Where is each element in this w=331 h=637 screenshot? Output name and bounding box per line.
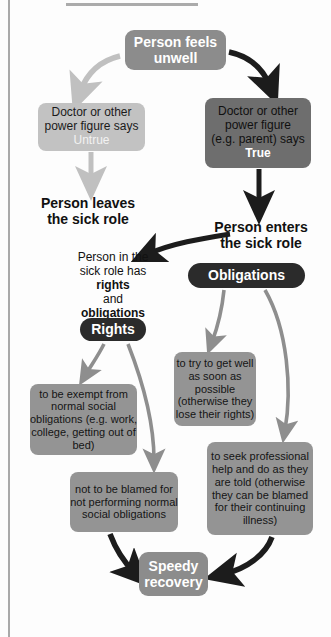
node-right-not-to-be-blamed[interactable]: not to be blamed for not performing norm… [70, 472, 178, 532]
true-line-3: (e.g. parent) says [205, 133, 311, 147]
node-label: Doctor or other power figure says Untrue [38, 106, 145, 148]
node-sick-role-has-rights-and-obligations: Person in the sick role has rights and o… [40, 262, 186, 310]
node-speedy-recovery[interactable]: Speedy recovery [139, 552, 208, 596]
untrue-line-1: Doctor or other [38, 106, 145, 120]
heading-obligations[interactable]: Obligations [188, 263, 305, 288]
edge-seekhelp-to-speedy [224, 537, 272, 574]
edge-unwell-to-true [229, 52, 270, 86]
leaves-line-1: Person leaves [14, 195, 162, 211]
heading-label: Rights [80, 321, 146, 337]
node-label: to seek professional help and do as they… [207, 450, 313, 527]
haspair-line-1: Person in the [40, 251, 186, 265]
true-line-1: Doctor or other [205, 105, 311, 119]
node-label: Person feels unwell [125, 34, 226, 66]
node-label: Doctor or other power figure (e.g. paren… [205, 105, 311, 161]
node-doctor-says-untrue[interactable]: Doctor or other power figure says Untrue [38, 103, 145, 151]
node-label: Person leaves the sick role [14, 195, 162, 227]
haspair-line-3: and obligations [40, 293, 186, 321]
edge-obligations-to-getwell [212, 290, 224, 342]
node-label: to try to get well as soon as possible (… [174, 357, 256, 421]
leaves-line-2: the sick role [14, 211, 162, 227]
node-person-enters-sick-role: Person enters the sick role [196, 216, 326, 254]
true-verdict: True [205, 147, 311, 161]
edge-obligations-to-seekhelp [265, 290, 288, 430]
node-label: to be exempt from normal social obligati… [30, 388, 137, 452]
untrue-verdict: Untrue [38, 134, 145, 148]
haspair-emphasis-rights: rights [96, 278, 129, 292]
sick-role-flowchart: Person feels unwell Doctor or other powe… [0, 0, 331, 637]
node-doctor-says-true[interactable]: Doctor or other power figure (e.g. paren… [205, 98, 311, 168]
node-right-exempt-from-obligations[interactable]: to be exempt from normal social obligati… [30, 384, 137, 455]
heading-rights[interactable]: Rights [80, 318, 146, 341]
node-label: Speedy recovery [139, 558, 208, 590]
edge-notblamed-to-speedy [110, 534, 134, 572]
edge-rights-to-exempt [86, 344, 104, 374]
heading-label: Obligations [188, 267, 305, 283]
edge-unwell-to-untrue [80, 56, 120, 92]
node-person-feels-unwell[interactable]: Person feels unwell [125, 30, 226, 70]
haspair-text-b: and [40, 293, 186, 307]
node-label: not to be blamed for not performing norm… [70, 483, 178, 521]
haspair-text-a: sick role has [40, 265, 186, 279]
node-obligation-get-well[interactable]: to try to get well as soon as possible (… [174, 352, 256, 426]
enters-line-1: Person enters [196, 219, 326, 235]
true-line-2: power figure [205, 119, 311, 133]
enters-line-2: the sick role [196, 235, 326, 251]
node-obligation-seek-professional-help[interactable]: to seek professional help and do as they… [207, 442, 313, 535]
haspair-line-2: sick role has rights [40, 265, 186, 293]
untrue-line-2: power figure says [38, 120, 145, 134]
node-person-leaves-sick-role: Person leaves the sick role [14, 192, 162, 230]
node-label: Person in the sick role has rights and o… [40, 251, 186, 321]
node-label: Person enters the sick role [196, 219, 326, 251]
